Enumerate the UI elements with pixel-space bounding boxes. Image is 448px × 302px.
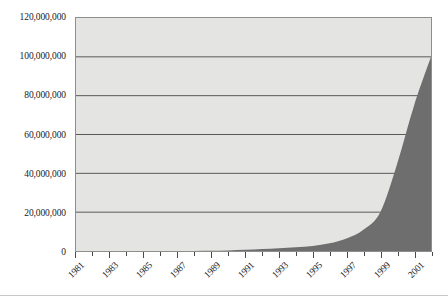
y-tick-label: 20,000,000: [24, 208, 66, 218]
x-tick-label: 1991: [236, 260, 256, 280]
x-axis-labels: 1981198319851987198919911993199519971999…: [0, 252, 448, 298]
x-tick-label: 1983: [100, 260, 120, 280]
x-tick-label: 1999: [372, 260, 392, 280]
y-axis: 020,000,00040,000,00060,000,00080,000,00…: [0, 0, 70, 260]
x-tick-label: 1985: [134, 260, 154, 280]
y-tick-label: 40,000,000: [24, 169, 66, 179]
y-tick-label: 120,000,000: [20, 12, 66, 22]
x-tick-label: 1995: [304, 260, 324, 280]
y-tick-label: 100,000,000: [20, 51, 66, 61]
x-tick-label: 1989: [202, 260, 222, 280]
x-tick-label: 1987: [168, 260, 188, 280]
plot-svg: [76, 18, 431, 251]
gridlines: [76, 57, 431, 212]
x-tick-label: 1981: [66, 260, 86, 280]
x-tick-label: 1997: [338, 260, 358, 280]
plot-area: [75, 17, 432, 252]
area-chart-figure: 020,000,00040,000,00060,000,00080,000,00…: [0, 0, 448, 302]
bottom-divider: [0, 295, 448, 296]
y-tick-label: 80,000,000: [24, 90, 66, 100]
x-tick-label: 1993: [270, 260, 290, 280]
x-tick-label: 2001: [406, 260, 426, 280]
y-tick-label: 60,000,000: [24, 130, 66, 140]
area-series-path: [76, 57, 431, 251]
